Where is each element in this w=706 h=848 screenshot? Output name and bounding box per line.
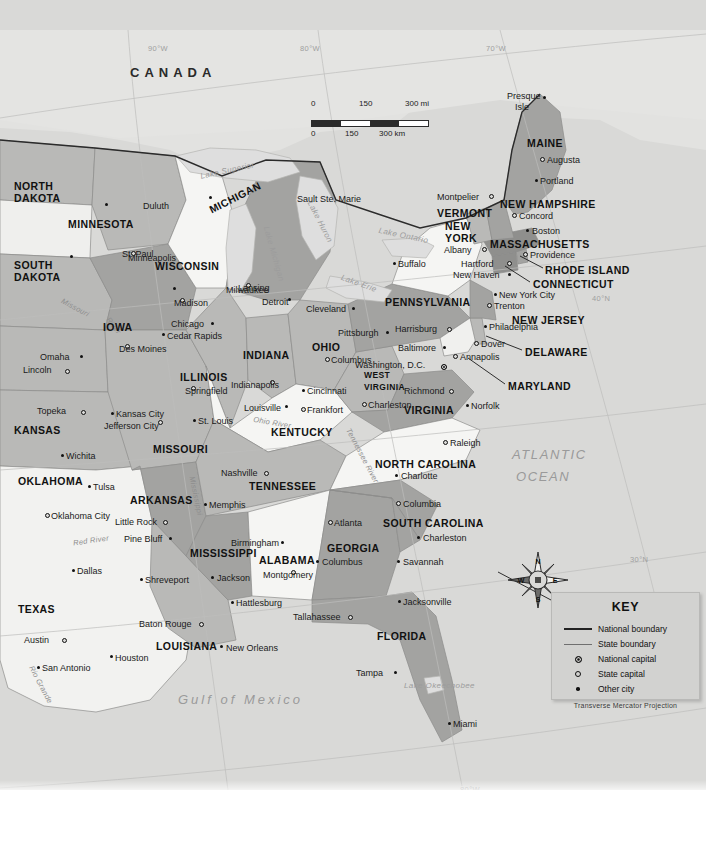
key-label-2: National capital [598,654,656,664]
scale-km-max: 300 km [379,129,405,138]
scale-mi-zero: 0 [311,99,315,108]
key-label-4: Other city [598,684,634,694]
key-item-list: National boundaryState boundaryNational … [558,622,699,696]
map-canvas: CANADAATLANTICOCEANGulf of Mexico90°W80°… [0,0,706,848]
key-label-1: State boundary [598,639,656,649]
national-boundary-line-icon [558,628,598,630]
key-row-state-capital-dot: State capital [558,667,699,681]
key-title: KEY [552,600,699,614]
state-boundary-line-icon [558,644,598,645]
key-label-0: National boundary [598,624,667,634]
scale-mi-max: 300 mi [405,99,429,108]
scale-bar-graphic [311,120,429,127]
key-row-other-city-dot: Other city [558,682,699,696]
scale-bar: 0 150 300 mi 0 150 300 km [311,110,431,139]
key-row-national-capital-dot: National capital [558,652,699,666]
compass-north-label: N [535,558,540,565]
national-capital-dot-icon [558,656,598,663]
key-row-national-boundary-line: National boundary [558,622,699,636]
compass-east-label: E [553,577,558,584]
scale-km-mid: 150 [345,129,358,138]
compass-south-label: S [536,596,541,603]
state-capital-dot-icon [558,671,598,677]
other-city-dot-icon [558,687,598,691]
scale-km-zero: 0 [311,129,315,138]
map-key-legend: KEY National boundaryState boundaryNatio… [551,592,700,700]
key-projection-note: Transverse Mercator Projection [552,702,699,709]
key-label-3: State capital [598,669,645,679]
key-row-state-boundary-line: State boundary [558,637,699,651]
page-white-margin [0,790,706,848]
scale-mi-mid: 150 [359,99,372,108]
compass-west-label: W [518,577,525,584]
